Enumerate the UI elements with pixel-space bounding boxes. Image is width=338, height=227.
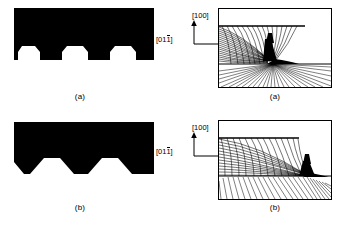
direction-label-horizontal-a-prefix: [01	[156, 35, 166, 44]
slip-line-field-a	[218, 8, 332, 88]
caption-b-left: (b)	[50, 203, 110, 213]
groove-profile-a	[14, 8, 154, 60]
direction-label-horizontal-a-suffix: ]	[171, 35, 173, 44]
direction-label-vertical-a: [100]	[192, 11, 209, 20]
figure-root: (a) [100] [011]	[0, 0, 338, 227]
groove-profile-b	[14, 122, 154, 174]
direction-label-horizontal-a-barred: 1	[166, 35, 170, 44]
slip-line-field-b	[218, 120, 332, 200]
direction-label-horizontal-b-barred: 1	[166, 147, 170, 156]
caption-a-left: (a)	[50, 92, 110, 102]
direction-label-horizontal-b-suffix: ]	[171, 147, 173, 156]
direction-label-horizontal-b: [011]	[156, 147, 173, 156]
direction-label-horizontal-b-prefix: [01	[156, 147, 166, 156]
direction-label-vertical-b: [100]	[192, 123, 209, 132]
caption-b-right: (b)	[245, 203, 305, 213]
direction-label-horizontal-a: [011]	[156, 35, 173, 44]
caption-a-right: (a)	[245, 92, 305, 102]
